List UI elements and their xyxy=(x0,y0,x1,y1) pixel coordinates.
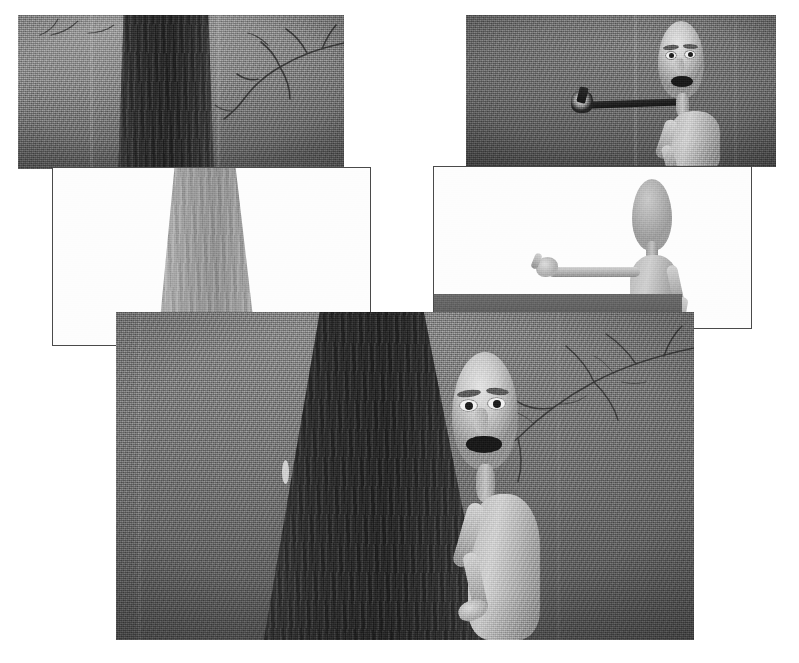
vignette xyxy=(466,15,776,167)
scene-white-pointing-figure xyxy=(434,167,751,328)
vignette xyxy=(18,15,344,169)
scene-tree-and-character xyxy=(116,312,694,640)
arm-pointing xyxy=(548,267,640,277)
scene-forest-wide xyxy=(18,15,344,169)
panel-bottom-large-shot xyxy=(116,312,694,640)
collage-canvas xyxy=(0,0,799,663)
panel-top-right-closeup xyxy=(466,15,776,167)
scene-closeup-prop xyxy=(466,15,776,167)
panel-mid-right-white-plate xyxy=(434,167,751,328)
panel-top-left-forest-wide xyxy=(18,15,344,169)
vignette xyxy=(116,312,694,640)
